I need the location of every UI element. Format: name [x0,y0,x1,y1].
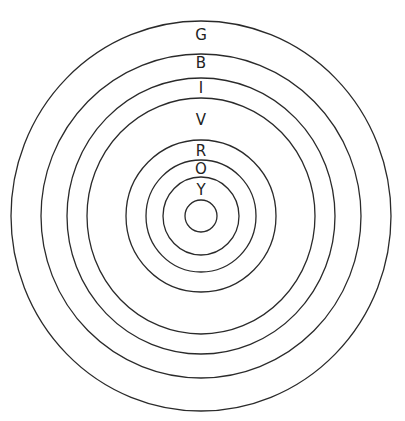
label-r: R [196,142,206,160]
label-g: G [195,26,207,44]
labels-group: G B I V R O Y [195,26,207,199]
label-b: B [196,54,206,72]
label-v: V [196,111,207,129]
ring-5 [87,98,315,334]
label-i: I [199,79,203,97]
ring-1 [185,200,217,232]
concentric-circles-diagram: G B I V R O Y [0,0,405,421]
label-y: Y [195,181,206,199]
ring-7 [41,54,361,378]
label-o: O [195,160,207,178]
